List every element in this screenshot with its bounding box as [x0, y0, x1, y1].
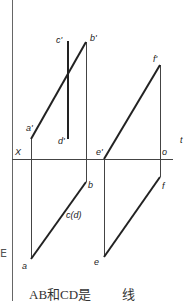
- line-ef: [104, 177, 160, 257]
- label-e: e: [94, 257, 99, 267]
- label-f-prime: f': [153, 54, 158, 64]
- label-b-prime: b': [90, 33, 97, 43]
- label-o: o: [162, 147, 167, 157]
- label-t: t: [180, 135, 183, 145]
- label-c-d: c(d): [66, 210, 82, 220]
- caption-right: 线: [122, 284, 135, 303]
- label-d-prime: d': [58, 136, 65, 146]
- label-a-prime: a': [26, 123, 33, 133]
- line-e-prime-f-prime: [104, 65, 160, 159]
- label-c-prime: c': [56, 35, 63, 45]
- caption-left: AB和CD是: [29, 284, 91, 303]
- label-x: X: [14, 147, 22, 157]
- label-f: f: [162, 181, 166, 191]
- label-e-prime: e': [96, 147, 103, 157]
- line-a-prime-b-prime: [31, 42, 86, 139]
- left-edge-text: E: [0, 247, 7, 260]
- label-a: a: [22, 261, 27, 271]
- caption-left-text: AB和CD是: [29, 287, 91, 302]
- label-b: b: [88, 180, 93, 190]
- line-ab: [31, 182, 86, 259]
